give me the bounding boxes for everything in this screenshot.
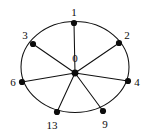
node-label-2: 2 (124, 30, 130, 41)
spoke-edge-group (22, 23, 128, 112)
graph-canvas (0, 0, 147, 139)
spoke-edge-0-3 (33, 44, 75, 73)
graph-node-1[interactable] (71, 20, 77, 26)
node-label-9: 9 (102, 119, 108, 130)
node-label-1: 1 (71, 7, 77, 18)
spoke-edge-0-2 (75, 43, 119, 73)
spoke-edge-0-9 (75, 73, 103, 111)
spoke-edge-0-1 (74, 23, 75, 73)
node-label-13: 13 (47, 120, 58, 131)
spoke-edge-0-6 (22, 73, 75, 82)
hub-node-label-0: 0 (72, 53, 78, 64)
spoke-edge-0-4 (75, 73, 128, 81)
graph-node-2[interactable] (116, 40, 122, 46)
node-label-3: 3 (22, 30, 28, 41)
graph-node-13[interactable] (54, 109, 60, 115)
hub-node-0[interactable] (72, 70, 79, 77)
graph-node-3[interactable] (30, 41, 36, 47)
wheel-graph-figure: 123469130 (0, 0, 147, 139)
graph-node-9[interactable] (100, 108, 106, 114)
graph-node-4[interactable] (125, 78, 131, 84)
graph-node-6[interactable] (19, 79, 25, 85)
node-label-6: 6 (10, 77, 16, 88)
node-label-4: 4 (134, 77, 140, 88)
spoke-edge-0-13 (57, 73, 75, 112)
